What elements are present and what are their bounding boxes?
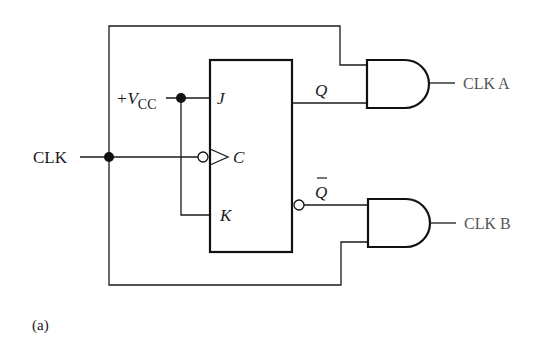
- clk-junction-dot: [104, 152, 114, 162]
- and-gate-a: [367, 60, 429, 108]
- c-pin-label: C: [233, 148, 245, 167]
- figure-caption: (a): [32, 317, 49, 334]
- and-gate-b: [368, 199, 430, 247]
- clk-loop-wire-top: [109, 26, 367, 157]
- k-pin-label: K: [219, 206, 233, 225]
- j-pin-label: J: [217, 89, 226, 108]
- clk-loop-wire-bottom: [109, 157, 368, 285]
- clock-edge-triangle-icon: [210, 149, 228, 165]
- vcc-label: +VCC: [116, 89, 157, 112]
- clk-input-label: CLK: [33, 148, 68, 167]
- q-output-label: Q: [315, 81, 327, 100]
- clk-b-label: CLK B: [464, 215, 511, 232]
- q-bar-output-label: Q: [315, 183, 327, 202]
- q-bar-bubble: [294, 200, 304, 210]
- vcc-junction-dot: [176, 93, 186, 103]
- clk-a-label: CLK A: [463, 75, 510, 92]
- clock-inversion-bubble: [198, 152, 208, 162]
- circuit-diagram: +VCC CLK J C K Q Q CLK A CLK B (a): [0, 0, 557, 346]
